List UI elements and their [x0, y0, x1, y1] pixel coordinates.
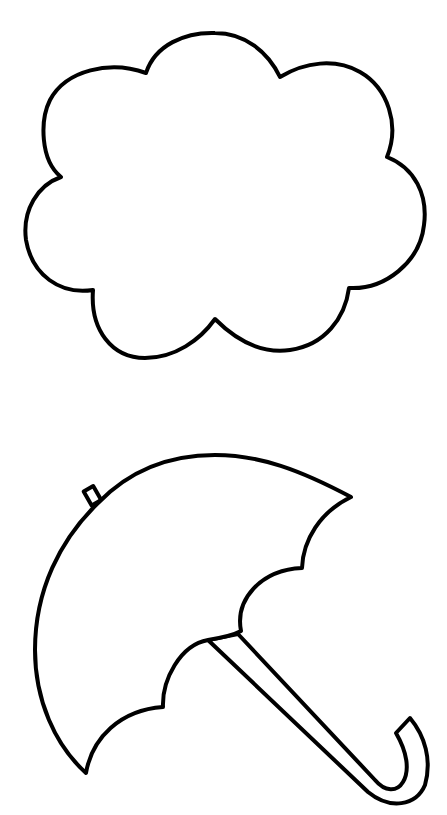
umbrella-icon [35, 455, 428, 803]
coloring-page [0, 0, 447, 815]
umbrella-handle-icon [208, 634, 428, 803]
cloud-icon [25, 33, 424, 358]
